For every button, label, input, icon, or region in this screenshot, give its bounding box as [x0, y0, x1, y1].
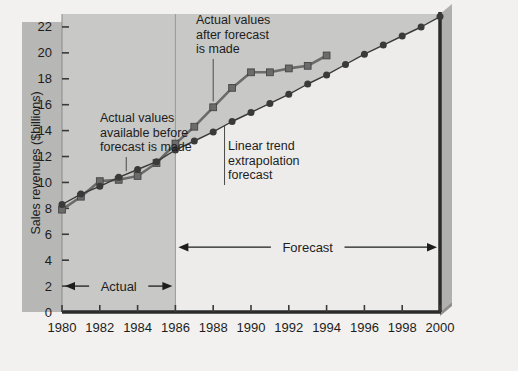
annotation-text: forecast is made: [100, 140, 192, 154]
y-tick-label: 0: [45, 305, 52, 320]
data-point-marker-circle: [115, 174, 122, 181]
x-tick-label: 1988: [199, 320, 228, 335]
data-point-marker-square: [248, 69, 255, 76]
annotation-text: available before: [100, 126, 188, 140]
data-point-marker-circle: [418, 23, 425, 30]
data-point-marker-square: [285, 65, 292, 72]
annotation-text: Actual values: [196, 13, 270, 27]
x-tick-label: 1980: [48, 320, 77, 335]
data-point-marker-circle: [229, 118, 236, 125]
data-point-marker-circle: [210, 128, 217, 135]
x-tick-label: 1986: [161, 320, 190, 335]
y-tick-label: 6: [45, 227, 52, 242]
data-point-marker-circle: [323, 71, 330, 78]
data-point-marker-square: [267, 69, 274, 76]
annotation-text: is made: [196, 42, 240, 56]
y-tick-label: 2: [45, 279, 52, 294]
x-tick-label: 1994: [312, 320, 341, 335]
sales-revenue-forecast-chart: 0246810121416182022Sales revenues ($bill…: [0, 0, 518, 371]
x-tick-label: 1996: [350, 320, 379, 335]
annotation-text: forecast: [228, 168, 273, 182]
y-axis-title: Sales revenues ($billions): [29, 91, 43, 234]
x-tick-label: 1982: [85, 320, 114, 335]
x-tick-label: 1990: [237, 320, 266, 335]
annotation-text: Actual values: [100, 111, 174, 125]
data-point-marker-circle: [285, 91, 292, 98]
y-tick-label: 22: [38, 19, 52, 34]
data-point-marker-circle: [77, 191, 84, 198]
y-tick-label: 20: [38, 45, 52, 60]
x-tick-label: 1984: [123, 320, 152, 335]
forecast-range-label: Forecast: [282, 240, 333, 255]
y-tick-label: 4: [45, 253, 52, 268]
data-point-marker-circle: [380, 42, 387, 49]
data-point-marker-circle: [361, 51, 368, 58]
plot-slab-right: [440, 4, 452, 312]
data-point-marker-square: [304, 62, 311, 69]
data-point-marker-circle: [191, 137, 198, 144]
data-point-marker-circle: [304, 80, 311, 87]
data-point-marker-circle: [248, 109, 255, 116]
data-point-marker-square: [210, 104, 217, 111]
data-point-marker-square: [191, 123, 198, 130]
data-point-marker-circle: [342, 61, 349, 68]
y-tick-label: 8: [45, 201, 52, 216]
data-point-marker-circle: [437, 13, 444, 20]
actual-range-label: Actual: [101, 279, 137, 294]
data-point-marker-circle: [399, 33, 406, 40]
data-point-marker-circle: [266, 100, 273, 107]
annotation-text: extrapolation: [228, 154, 300, 168]
data-point-marker-circle: [96, 183, 103, 190]
x-tick-label: 2000: [426, 320, 455, 335]
data-point-marker-square: [229, 84, 236, 91]
data-point-marker-circle: [153, 158, 160, 165]
data-point-marker-circle: [59, 201, 66, 208]
data-point-marker-square: [323, 52, 330, 59]
annotation-text: after forecast: [196, 28, 269, 42]
x-tick-label: 1998: [388, 320, 417, 335]
annotation-text: Linear trend: [228, 139, 295, 153]
x-tick-label: 1992: [274, 320, 303, 335]
data-point-marker-circle: [134, 166, 141, 173]
y-tick-label: 18: [38, 71, 52, 86]
data-point-marker-square: [134, 173, 141, 180]
